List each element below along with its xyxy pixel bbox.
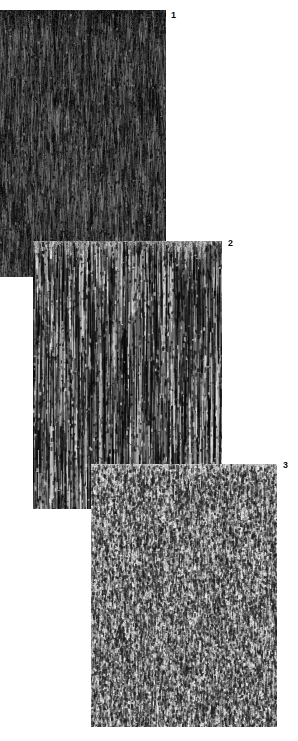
panel-3-label: 3 (283, 461, 288, 470)
panel-3-texture (91, 464, 277, 727)
panel-2-label: 2 (228, 239, 233, 248)
micrograph-panel-3 (91, 464, 277, 727)
micrograph-plate: 1 2 3 (0, 0, 298, 741)
panel-1-label: 1 (171, 11, 176, 20)
micrograph-panel-1 (0, 10, 166, 277)
panel-1-texture (0, 10, 166, 277)
